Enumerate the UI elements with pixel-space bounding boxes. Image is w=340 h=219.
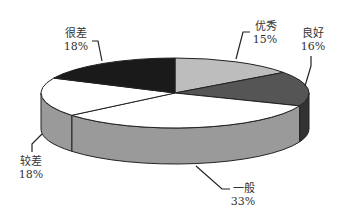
label-poor-name: 较差 (20, 154, 42, 168)
label-very-poor-pct: 18% (64, 40, 88, 53)
label-poor-pct: 18% (19, 168, 43, 181)
leader-line-average (196, 166, 230, 189)
leader-line-good (305, 56, 311, 86)
label-good-name: 良好 (302, 26, 324, 40)
leader-line-excellent (236, 32, 250, 59)
label-average-name: 一般 (233, 182, 255, 195)
leader-line-very-poor (92, 41, 102, 61)
label-very-poor-name: 很差 (65, 26, 87, 40)
label-excellent-name: 优秀 (255, 20, 277, 33)
label-excellent-pct: 15% (253, 33, 277, 46)
pie-top-slices (41, 58, 309, 128)
pie-chart: 优秀 15% 良好 16% 一般 33% 较差 18% 很差 18% (0, 0, 340, 219)
label-good-pct: 16% (301, 40, 325, 53)
label-average-pct: 33% (231, 195, 255, 208)
leader-line-poor (32, 134, 42, 152)
